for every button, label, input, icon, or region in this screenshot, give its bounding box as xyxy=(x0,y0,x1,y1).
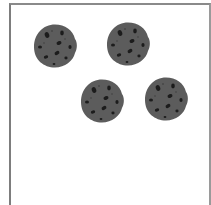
cookie-2 xyxy=(105,21,151,67)
cookie-icon xyxy=(105,21,151,67)
cookie-1 xyxy=(32,23,78,69)
cookie-icon xyxy=(32,23,78,69)
cookie-4 xyxy=(143,76,189,122)
cookie-icon xyxy=(143,76,189,122)
cookie-3 xyxy=(79,78,125,124)
cookie-icon xyxy=(79,78,125,124)
